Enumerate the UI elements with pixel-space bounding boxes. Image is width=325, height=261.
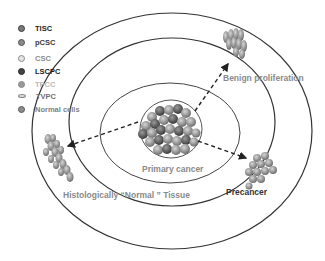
tisc-cell-icon xyxy=(18,25,25,32)
tvpc-cell-icon xyxy=(18,94,26,98)
legend-item-lscpc: LSCPC xyxy=(18,65,60,77)
legend-label: CSC xyxy=(35,54,51,63)
normal-tissue-cluster xyxy=(43,134,74,182)
benign-proliferation-label: Benign proliferation xyxy=(223,73,304,83)
csc-cell-icon xyxy=(18,55,25,62)
legend-label: LSCPC xyxy=(35,67,60,76)
legend-label: TPCC xyxy=(35,80,55,89)
legend-label: pCSC xyxy=(35,38,55,47)
legend-item-csc: CSC xyxy=(18,52,51,64)
normal-cell-icon xyxy=(18,106,25,113)
legend-item-tpcc: TPCC xyxy=(18,78,55,90)
tpcc-cell-icon xyxy=(18,81,25,88)
arrow-to-normal-tissue xyxy=(68,122,138,146)
legend-item-pcsc: pCSC xyxy=(18,36,55,48)
legend-label: Normal cells xyxy=(35,105,80,114)
lscpc-cell-icon xyxy=(18,68,25,75)
primary-cancer-label: Primary cancer xyxy=(142,164,203,174)
legend-label: TVPC xyxy=(36,92,56,101)
legend-item-tvpc: TVPC xyxy=(18,90,56,102)
pcsc-cell-icon xyxy=(18,39,25,46)
precancer-label: Precancer xyxy=(226,187,267,197)
precancer-cluster xyxy=(245,152,277,190)
legend-item-normal-cells: Normal cells xyxy=(18,103,80,115)
legend-item-tisc: TISC xyxy=(18,22,52,34)
normal-tissue-label: Histologically “Normal ” Tissue xyxy=(63,190,190,200)
benign-proliferation-cluster xyxy=(223,28,247,59)
legend-label: TISC xyxy=(35,24,52,33)
